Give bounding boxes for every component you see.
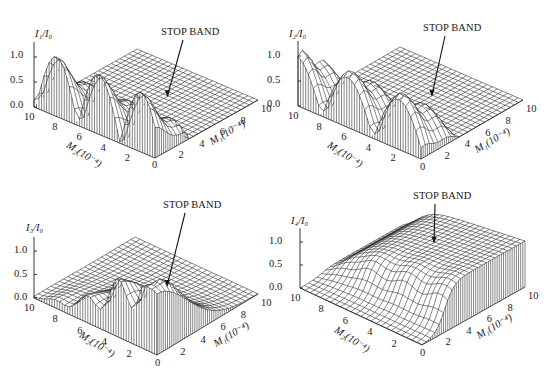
svg-text:6: 6 (341, 131, 346, 142)
stop-band-annotation: STOP BAND (163, 200, 221, 211)
svg-text:10: 10 (261, 297, 272, 308)
svg-text:8: 8 (317, 121, 322, 132)
z-axis-label: I₁/I₀ (35, 29, 52, 40)
svg-text:8: 8 (52, 121, 57, 132)
surface-plot-canvas: 246810108642 (0, 190, 273, 379)
svg-text:2: 2 (392, 338, 397, 349)
svg-text:2: 2 (390, 152, 395, 163)
svg-text:8: 8 (318, 303, 323, 314)
svg-text:4: 4 (465, 138, 471, 149)
svg-text:2: 2 (180, 346, 185, 357)
surface-plot-canvas: 246810108642 (273, 190, 547, 379)
z-tick-label: 1.0 (267, 50, 280, 61)
z-tick-label: 1.0 (14, 245, 27, 256)
z-tick-label: 1.0 (10, 50, 23, 61)
svg-text:2: 2 (444, 150, 449, 161)
surface-plot-i1: 246810108642 I₁/I₀ 1.0 0.5 0.0 STOP BAND… (0, 0, 273, 189)
svg-text:4: 4 (199, 138, 205, 149)
svg-text:8: 8 (241, 309, 246, 320)
surface-plot-canvas: 246810108642 (273, 0, 547, 189)
svg-text:10: 10 (24, 302, 35, 313)
origin-tick-label: 0 (420, 348, 425, 359)
svg-text:8: 8 (506, 115, 511, 126)
z-tick-label: 0.0 (269, 282, 282, 293)
z-axis-label: I₃/I₀ (26, 223, 43, 234)
svg-text:2: 2 (125, 152, 130, 163)
svg-text:4: 4 (200, 334, 206, 345)
z-tick-label: 0.0 (10, 100, 23, 111)
z-tick-label: 0.5 (269, 259, 282, 270)
z-tick-label: 1.0 (269, 236, 282, 247)
svg-text:10: 10 (290, 292, 301, 303)
z-tick-label: 0.5 (14, 269, 27, 280)
z-tick-label: 0.0 (267, 99, 280, 110)
surface-plot-i2: 246810108642 I₂/I₀ 1.0 0.5 0.0 STOP BAND… (273, 0, 546, 189)
svg-text:4: 4 (367, 326, 373, 337)
svg-text:2: 2 (179, 149, 184, 160)
svg-text:4: 4 (466, 325, 472, 336)
svg-text:4: 4 (101, 142, 107, 153)
z-axis-label: I₄/I₀ (291, 216, 308, 227)
z-tick-label: 0.5 (267, 75, 280, 86)
stop-band-annotation: STOP BAND (161, 27, 219, 38)
svg-text:10: 10 (526, 103, 537, 114)
origin-tick-label: 0 (420, 162, 425, 173)
svg-text:2: 2 (126, 348, 131, 359)
origin-tick-label: 0 (155, 358, 160, 369)
surface-plot-i3: 246810108642 I₃/I₀ 1.0 0.5 0.0 STOP BAND… (0, 190, 273, 379)
z-tick-label: 0.0 (14, 292, 27, 303)
svg-text:10: 10 (288, 110, 299, 121)
svg-text:10: 10 (24, 111, 35, 122)
svg-text:6: 6 (76, 131, 81, 142)
stop-band-annotation: STOP BAND (413, 191, 471, 202)
svg-text:6: 6 (343, 315, 348, 326)
z-axis-label: I₂/I₀ (289, 29, 306, 40)
svg-text:10: 10 (528, 290, 539, 301)
origin-tick-label: 0 (152, 160, 157, 171)
stop-band-annotation: STOP BAND (423, 23, 481, 34)
z-tick-label: 0.5 (10, 75, 23, 86)
svg-text:2: 2 (446, 336, 451, 347)
svg-text:4: 4 (366, 142, 372, 153)
surface-plot-i4: 246810108642 I₄/I₀ 1.0 0.5 0.0 STOP BAND… (273, 190, 546, 379)
svg-text:8: 8 (53, 313, 58, 324)
